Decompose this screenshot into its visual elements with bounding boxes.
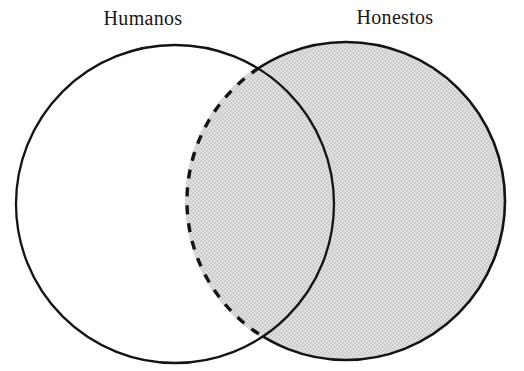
venn-label-honestos: Honestos xyxy=(252,7,524,27)
venn-diagram-canvas xyxy=(0,0,524,371)
venn-diagram-figure: Humanos Honestos xyxy=(0,0,524,371)
venn-label-humanos: Humanos xyxy=(0,8,286,28)
